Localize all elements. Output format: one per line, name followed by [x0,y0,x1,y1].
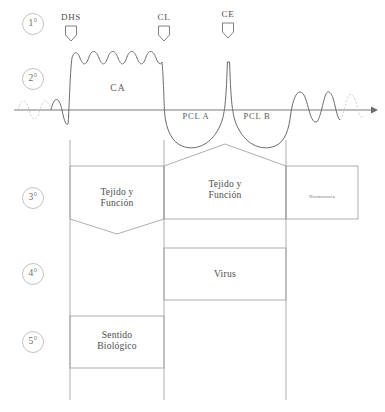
phase-circle-markers [23,14,44,353]
pcl-a-curve [165,62,228,148]
diagram-canvas [0,0,385,412]
normotonia-shape [286,166,358,219]
tejido-funcion-right-shape [164,144,286,219]
normotonia-wave-right-solid [291,92,340,122]
phase-circle-5 [23,332,44,353]
tejido-funcion-left-shape [70,166,164,234]
sentido-biologico-shape [70,316,164,368]
phase-circle-2 [23,69,44,90]
normotonia-wave-right-faded [340,94,364,120]
virus-shape [164,248,286,300]
phase-circle-4 [23,264,44,285]
biological-laws-diagram: 1° 2° 3° 4° 5° DHS CL CE CA PCL A PCL B … [0,0,385,412]
event-flag-markers [66,23,234,41]
ca-conflict-active-curve [68,51,165,124]
ce-flag-icon [223,23,234,38]
grid-vertical-lines [70,140,286,400]
pcl-b-curve [230,62,291,148]
normotonia-wave-left-solid [51,100,68,125]
phase-circle-1 [23,14,44,35]
phase-circle-3 [23,188,44,209]
cl-flag-icon [159,26,170,41]
dhs-flag-icon [66,26,77,41]
